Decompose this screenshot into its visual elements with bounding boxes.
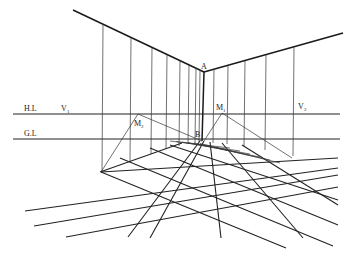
right-wall-vertical xyxy=(227,65,228,144)
horizon-line-label: H.L xyxy=(24,104,37,113)
floor-grid-line xyxy=(170,145,338,200)
right-wall-vertical xyxy=(244,60,245,146)
floor-grid-line xyxy=(34,175,338,226)
corner-edge-ab xyxy=(202,72,204,141)
right-wall-top-edge xyxy=(204,33,343,72)
left-wall-top-edge xyxy=(73,10,204,72)
vp-right-sub: 2 xyxy=(304,107,307,112)
floor-grid-line xyxy=(66,187,338,237)
right-wall-vertical xyxy=(293,47,294,156)
floor-grid-line xyxy=(120,158,333,246)
corner-a-label: A xyxy=(201,62,207,71)
corner-b-label: B xyxy=(195,130,200,139)
right-wall-verticals xyxy=(213,47,294,156)
left-wall-vertical xyxy=(130,37,131,162)
m1-sub: 1 xyxy=(223,108,226,113)
m2-line-to-b xyxy=(138,114,202,141)
floor-grid-line xyxy=(128,141,200,237)
left-wall-vertical xyxy=(179,61,180,146)
m2-sub: 2 xyxy=(141,124,144,129)
right-wall-vertical xyxy=(265,55,266,150)
left-wall-vertical xyxy=(188,65,189,144)
left-wall-vertical xyxy=(102,24,103,172)
perspective-diagram: H.L G.L V 1 V 2 A B M 2 M 1 xyxy=(0,0,352,257)
ground-line-label: G.L xyxy=(24,129,37,138)
left-wall-vertical xyxy=(151,47,152,154)
right-wall-vertical xyxy=(213,69,214,143)
floor-grid-line xyxy=(210,142,221,238)
vp-left-sub: 1 xyxy=(67,109,70,114)
left-wall-vertical xyxy=(166,54,167,149)
